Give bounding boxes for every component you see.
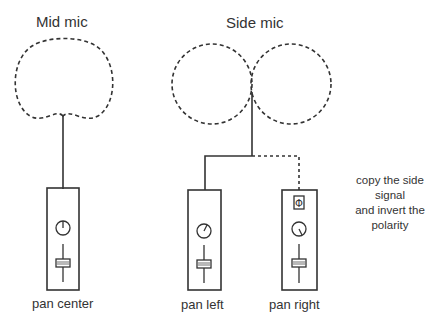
channel-label-left: pan left [181,297,224,312]
fader-cap-center [56,259,70,267]
side-mic-title: Side mic [226,14,284,31]
annotation-line-2: signal [350,188,429,203]
mid-cardioid-pattern [15,39,113,119]
mid-mic-title: Mid mic [36,13,88,30]
annotation-line-1: copy the side [350,173,429,188]
channel-label-right: pan right [269,297,320,312]
side-lobe-right [251,44,331,124]
annotation-line-3: and invert the [350,203,429,218]
side-right-copy-route [252,156,299,190]
fader-cap-right [292,259,306,267]
polarity-annotation: copy the side signal and invert the pola… [350,173,429,233]
channel-label-center: pan center [32,296,93,311]
side-left-route [205,156,252,190]
fader-cap-left [197,260,211,268]
annotation-line-4: polarity [350,218,429,233]
phase-symbol: Φ [295,198,303,209]
side-lobe-left [172,44,252,124]
